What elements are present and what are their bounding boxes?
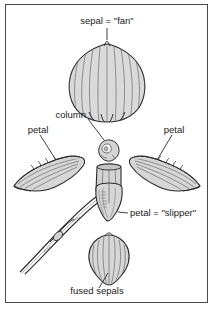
label-dorsal-sepal: sepal = "fan"	[80, 15, 134, 26]
petal-left-shape	[14, 156, 85, 191]
orchid-dissection-diagram: sepal = "fan" column petal petal petal =…	[0, 0, 214, 309]
leader-lip	[118, 212, 128, 213]
flower-stem	[20, 197, 99, 274]
label-fused-sepals: fused sepals	[70, 285, 124, 296]
fused-sepals-shape	[89, 233, 129, 285]
petal-right-shape	[129, 156, 200, 191]
leader-petal-right	[157, 135, 172, 160]
label-lip: petal = "slipper"	[130, 207, 196, 218]
label-petal-right: petal	[164, 124, 185, 135]
leader-petal-left	[40, 135, 56, 160]
label-column: column	[55, 109, 86, 120]
column-shape	[99, 140, 119, 161]
label-petal-left: petal	[28, 124, 49, 135]
figure-root: sepal = "fan" column petal petal petal =…	[0, 0, 214, 309]
